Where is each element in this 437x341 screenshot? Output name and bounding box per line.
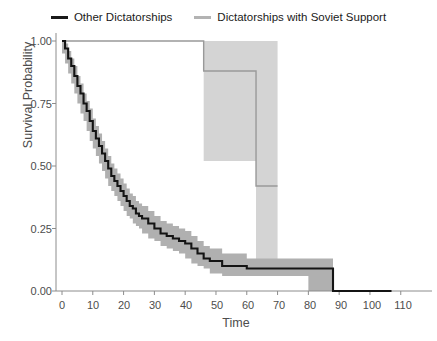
survival-curve-figure: Other Dictatorships Dictatorships with S… (0, 0, 437, 341)
survival-plot-svg (0, 0, 437, 341)
plot-area (62, 41, 410, 291)
confidence-band-gray (191, 41, 277, 266)
